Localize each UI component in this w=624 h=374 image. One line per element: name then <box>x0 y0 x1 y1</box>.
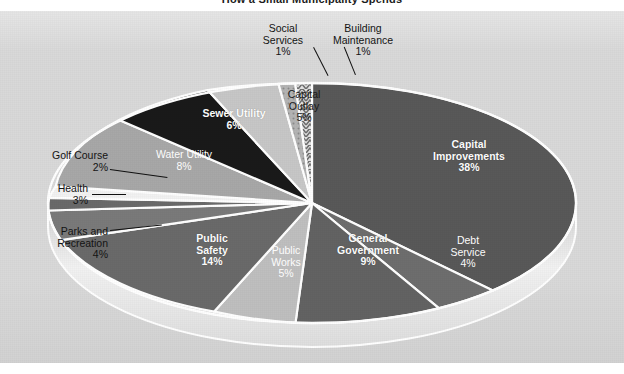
label-general-government-line1: General <box>316 233 420 245</box>
label-sewer-utility-pct: 6% <box>182 120 286 132</box>
label-public-works: Public Works 5% <box>253 245 319 280</box>
chart-paper: Social Services 1% Building Maintenance … <box>0 11 624 363</box>
label-social-services-line1: Social <box>252 23 314 35</box>
label-debt-service: Debt Service 4% <box>437 235 499 270</box>
label-health-line1: Health <box>10 183 88 195</box>
label-general-government-pct: 9% <box>316 256 420 268</box>
label-capital-improvements: Capital Improvements 38% <box>406 139 532 174</box>
label-parks-recreation-line2: Recreation <box>0 238 108 250</box>
label-health: Health 3% <box>10 183 88 206</box>
label-golf-course-line1: Golf Course <box>4 150 108 162</box>
label-social-services: Social Services 1% <box>252 23 314 58</box>
label-water-utility: Water Utility 8% <box>132 149 236 172</box>
label-public-works-line1: Public <box>253 245 319 257</box>
label-sewer-utility-line1: Sewer Utility <box>182 108 286 120</box>
label-public-works-pct: 5% <box>253 268 319 280</box>
label-parks-recreation-line1: Parks and <box>0 226 108 238</box>
label-building-maintenance-line1: Building <box>318 23 408 35</box>
label-general-government: General Government 9% <box>316 233 420 268</box>
label-capital-outlay-line1: Capital <box>266 89 342 101</box>
label-debt-service-line1: Debt <box>437 235 499 247</box>
label-golf-course-pct: 2% <box>4 162 108 174</box>
label-parks-recreation: Parks and Recreation 4% <box>0 226 108 261</box>
title-strip: How a Small Municipality Spends <box>0 0 624 11</box>
label-capital-improvements-line1: Capital <box>406 139 532 151</box>
label-public-safety: Public Safety 14% <box>168 233 256 268</box>
label-golf-course: Golf Course 2% <box>4 150 108 173</box>
label-parks-recreation-pct: 4% <box>0 249 108 261</box>
label-debt-service-pct: 4% <box>437 258 499 270</box>
page-title: How a Small Municipality Spends <box>0 0 624 5</box>
label-social-services-pct: 1% <box>252 46 314 58</box>
label-building-maintenance: Building Maintenance 1% <box>318 23 408 58</box>
leader-health <box>92 194 126 195</box>
label-water-utility-pct: 8% <box>132 161 236 173</box>
label-water-utility-line1: Water Utility <box>132 149 236 161</box>
label-capital-improvements-pct: 38% <box>406 162 532 174</box>
label-public-safety-pct: 14% <box>168 256 256 268</box>
label-public-safety-line1: Public <box>168 233 256 245</box>
label-health-pct: 3% <box>10 195 88 207</box>
chart-page: How a Small Municipality Spends <box>0 0 624 374</box>
label-sewer-utility: Sewer Utility 6% <box>182 108 286 131</box>
label-building-maintenance-pct: 1% <box>318 46 408 58</box>
